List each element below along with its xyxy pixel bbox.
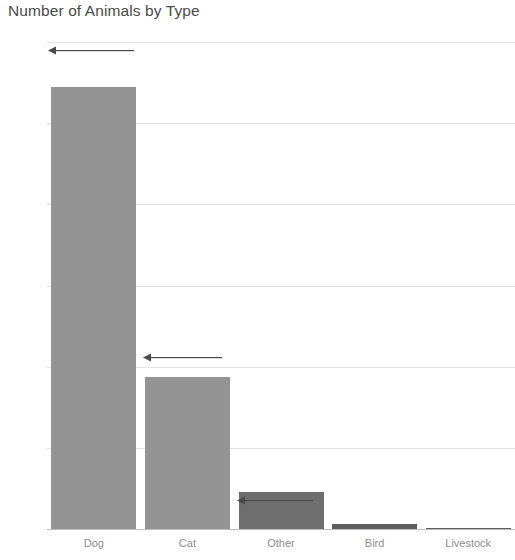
gridline-0: [47, 529, 515, 530]
arrow-above-cat-bar: [143, 353, 222, 362]
bar-cat[interactable]: [145, 377, 230, 529]
x-tick-label-dog: Dog: [84, 537, 104, 549]
bar-dog[interactable]: [51, 87, 136, 529]
bar-other[interactable]: [239, 492, 324, 529]
gridline-6000: [47, 42, 515, 43]
bar-livestock[interactable]: [426, 528, 511, 530]
x-tick-label-bird: Bird: [365, 537, 385, 549]
x-tick-label-cat: Cat: [179, 537, 196, 549]
bar-bird[interactable]: [332, 524, 417, 529]
plot-area: 01,0002,0003,0004,0005,0006,000 DogCatOt…: [47, 42, 515, 529]
arrow-above-dog-bar: [48, 46, 134, 55]
x-tick-label-livestock: Livestock: [445, 537, 491, 549]
bar-chart: Number of Animals by Type 01,0002,0003,0…: [0, 0, 515, 560]
chart-title: Number of Animals by Type: [8, 2, 200, 20]
x-tick-label-other: Other: [267, 537, 295, 549]
